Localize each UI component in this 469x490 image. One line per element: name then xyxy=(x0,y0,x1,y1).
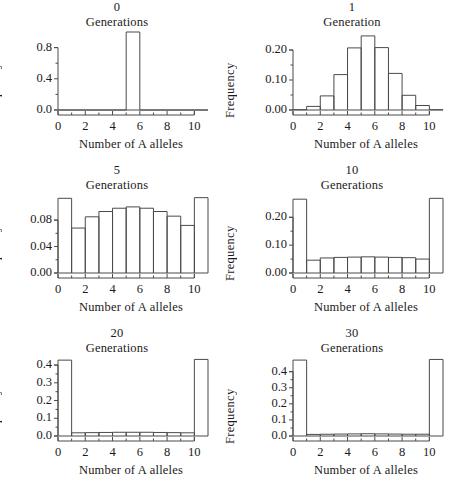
panel-20-generations: 20Generations0.00.10.20.30.40246810Frequ… xyxy=(0,326,234,489)
x-axis-tick-label: 10 xyxy=(180,445,208,460)
x-axis-label: Number of A alleles xyxy=(271,463,461,478)
x-axis-tick-label: 2 xyxy=(71,445,99,460)
y-axis-tick-label: 0.1 xyxy=(243,412,287,427)
y-axis-tick-label: 0.2 xyxy=(8,393,52,408)
panel-5-generations: 5Generations0.000.040.080246810Frequency… xyxy=(0,163,234,326)
y-axis-tick-label: 0.10 xyxy=(243,72,287,87)
y-axis-tick-label: 0.3 xyxy=(243,380,287,395)
histogram-bars xyxy=(293,198,443,273)
x-axis-tick-label: 6 xyxy=(361,445,389,460)
x-axis-tick-label: 4 xyxy=(99,119,127,134)
x-axis-label: Number of A alleles xyxy=(36,300,226,315)
y-axis-tick-label: 0.4 xyxy=(243,364,287,379)
x-axis-tick-label: 0 xyxy=(44,282,72,297)
y-axis-tick-label: 0.20 xyxy=(243,209,287,224)
histogram-bars xyxy=(293,36,443,110)
x-axis-tick-label: 6 xyxy=(361,119,389,134)
x-axis-tick-label: 4 xyxy=(334,119,362,134)
x-axis-tick-label: 6 xyxy=(126,282,154,297)
y-axis-tick-label: 0.00 xyxy=(8,265,52,280)
x-axis-tick-label: 4 xyxy=(99,282,127,297)
x-axis-tick-label: 10 xyxy=(415,445,443,460)
panel-30-generations: 30Generations0.00.10.20.30.40246810Frequ… xyxy=(235,326,469,489)
y-axis-tick-label: 0.0 xyxy=(8,102,52,117)
x-axis-tick-label: 8 xyxy=(388,445,416,460)
x-axis-tick-label: 8 xyxy=(153,119,181,134)
x-axis-label: Number of A alleles xyxy=(271,300,461,315)
x-axis-tick-label: 8 xyxy=(388,119,416,134)
x-axis-tick-label: 2 xyxy=(306,282,334,297)
x-axis-tick-label: 8 xyxy=(388,282,416,297)
x-axis-tick-label: 10 xyxy=(180,282,208,297)
x-axis-label: Number of A alleles xyxy=(36,137,226,152)
histogram-bars xyxy=(58,32,208,110)
y-axis-tick-label: 0.00 xyxy=(243,102,287,117)
histogram-bars xyxy=(58,359,208,436)
x-axis-tick-label: 2 xyxy=(71,282,99,297)
y-axis-label: Frequency xyxy=(223,28,238,118)
y-axis-tick-label: 0.00 xyxy=(243,265,287,280)
panel-1-generation: 1Generation0.000.100.200246810FrequencyN… xyxy=(235,0,469,163)
y-axis-tick-label: 0.8 xyxy=(8,40,52,55)
histogram-grid-figure: 0Generations0.00.40.80246810FrequencyNum… xyxy=(0,0,469,490)
y-axis-tick-label: 0.1 xyxy=(8,410,52,425)
x-axis-tick-label: 6 xyxy=(126,445,154,460)
x-axis-tick-label: 0 xyxy=(44,445,72,460)
x-axis-tick-label: 10 xyxy=(415,282,443,297)
x-axis-tick-label: 0 xyxy=(44,119,72,134)
y-axis-tick-label: 0.4 xyxy=(8,71,52,86)
y-axis-tick-label: 0.4 xyxy=(8,357,52,372)
x-axis-tick-label: 2 xyxy=(71,119,99,134)
histogram-bars xyxy=(293,359,443,436)
x-axis-label: Number of A alleles xyxy=(36,463,226,478)
y-axis-tick-label: 0.20 xyxy=(243,42,287,57)
y-axis-tick-label: 0.0 xyxy=(243,428,287,443)
x-axis-tick-label: 4 xyxy=(334,445,362,460)
x-axis-tick-label: 6 xyxy=(361,282,389,297)
y-axis-label: Frequency xyxy=(0,191,3,281)
x-axis-tick-label: 10 xyxy=(415,119,443,134)
y-axis-label: Frequency xyxy=(223,354,238,444)
y-axis-tick-label: 0.3 xyxy=(8,375,52,390)
y-axis-tick-label: 0.10 xyxy=(243,237,287,252)
panel-10-generations: 10Generations0.000.100.200246810Frequenc… xyxy=(235,163,469,326)
x-axis-tick-label: 2 xyxy=(306,119,334,134)
y-axis-label: Frequency xyxy=(0,28,3,118)
x-axis-tick-label: 2 xyxy=(306,445,334,460)
x-axis-tick-label: 6 xyxy=(126,119,154,134)
x-axis-tick-label: 8 xyxy=(153,282,181,297)
y-axis-tick-label: 0.2 xyxy=(243,396,287,411)
histogram-bars xyxy=(58,198,208,273)
y-axis-label: Frequency xyxy=(0,354,3,444)
x-axis-tick-label: 4 xyxy=(334,282,362,297)
x-axis-tick-label: 0 xyxy=(279,282,307,297)
x-axis-tick-label: 10 xyxy=(180,119,208,134)
y-axis-tick-label: 0.0 xyxy=(8,428,52,443)
x-axis-label: Number of A alleles xyxy=(271,137,461,152)
x-axis-tick-label: 4 xyxy=(99,445,127,460)
x-axis-tick-label: 8 xyxy=(153,445,181,460)
y-axis-label: Frequency xyxy=(223,191,238,281)
x-axis-tick-label: 0 xyxy=(279,445,307,460)
y-axis-tick-label: 0.04 xyxy=(8,239,52,254)
y-axis-tick-label: 0.08 xyxy=(8,212,52,227)
x-axis-tick-label: 0 xyxy=(279,119,307,134)
panel-0-generations: 0Generations0.00.40.80246810FrequencyNum… xyxy=(0,0,234,163)
